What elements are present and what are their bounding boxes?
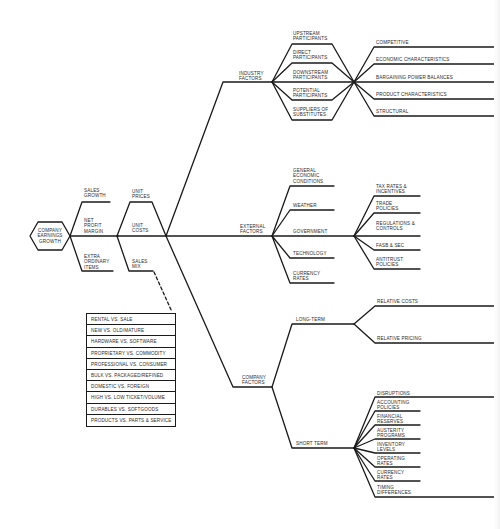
branch-short-term — [272, 387, 354, 448]
node-bargaining-power-balances: BARGAINING POWER BALANCES — [376, 75, 453, 80]
root-label-company-earnings-growth: COMPANY EARNINGS GROWTH — [33, 228, 67, 244]
node-company-factors: COMPANY FACTORS — [242, 375, 266, 386]
node-net-profit-margin: NET PROFIT MARGIN — [84, 218, 103, 234]
node-unit-costs: UNIT COSTS — [132, 223, 149, 234]
node-downstream-participants: DOWNSTREAM PARTICIPANTS — [293, 70, 328, 81]
sales-mix-item: RENTAL VS. SALE — [87, 314, 175, 325]
sales-mix-list: RENTAL VS. SALE NEW VS. OLD/MATURE HARDW… — [86, 313, 176, 427]
node-short-term: SHORT TERM — [296, 441, 328, 446]
sales-mix-item: BULK VS. PACKAGED/REFINED — [87, 370, 175, 381]
node-operating-rates: OPERATING RATES — [377, 456, 405, 467]
node-sales-mix: SALES MIX — [132, 259, 148, 270]
node-external-factors: EXTERNAL FACTORS — [240, 224, 265, 235]
sales-mix-item: HARDWARE VS. SOFTWARE — [87, 336, 175, 347]
node-suppliers-of-substitutes: SUPPLIERS OF SUBSTITUTES — [293, 107, 328, 118]
node-sales-growth: SALES GROWTH — [84, 188, 106, 199]
node-direct-participants: DIRECT PARTICIPANTS — [293, 50, 327, 61]
node-currency-rates-company: CURRENCY RATES — [377, 470, 404, 481]
node-antitrust-policies: ANTITRUST POLICIES — [376, 257, 403, 268]
sales-mix-item: PROFESSIONAL VS. CONSUMER — [87, 359, 175, 370]
node-economic-characteristics: ECONOMIC CHARACTERISTICS — [376, 57, 450, 62]
node-disruptions: DISRUPTIONS — [377, 391, 410, 396]
node-fasb-sec: FASB & SEC — [376, 243, 404, 248]
node-timing-differences: TIMING DIFFERENCES — [377, 485, 411, 496]
node-trade-policies: TRADE POLICIES — [376, 201, 398, 212]
sales-mix-dashed-link — [154, 272, 172, 312]
node-weather: WEATHER — [293, 203, 317, 208]
branch-company-factors — [166, 236, 272, 387]
sales-mix-item: HIGH VS. LOW TICKET/VOLUME — [87, 392, 175, 403]
node-long-term: LONG-TERM — [296, 317, 325, 322]
sales-mix-item: PROPRIETARY VS. COMMODITY — [87, 348, 175, 359]
node-inventory-levels: INVENTORY LEVELS — [377, 442, 405, 453]
node-unit-prices: UNIT PRICES — [132, 189, 150, 200]
node-currency-rates-external: CURRENCY RATES — [293, 271, 320, 282]
node-financial-reserves: FINANCIAL RESERVES — [377, 414, 403, 425]
page-edge-shadow — [494, 0, 500, 529]
node-tax-rates-incentives: TAX RATES & INCENTIVES — [376, 184, 407, 195]
node-austerity-programs: AUSTERITY PROGRAMS — [377, 428, 405, 439]
node-relative-pricing: RELATIVE PRICING — [377, 336, 422, 341]
node-relative-costs: RELATIVE COSTS — [377, 299, 418, 304]
node-technology: TECHNOLOGY — [293, 251, 327, 256]
node-government: GOVERNMENT — [293, 229, 327, 234]
node-accounting-policies: ACCOUNTING POLICIES — [377, 400, 409, 411]
sales-mix-item: NEW VS. OLD/MATURE — [87, 325, 175, 336]
node-potential-participants: POTENTIAL PARTICIPANTS — [293, 88, 327, 99]
node-regulations-controls: REGULATIONS & CONTROLS — [376, 221, 415, 232]
branch-industry-factors — [166, 82, 272, 236]
sales-mix-item: PRODUCTS VS. PARTS & SERVICE — [87, 415, 175, 426]
node-product-characteristics: PRODUCT CHARACTERISTICS — [376, 92, 447, 97]
node-extraordinary-items: EXTRA ORDINARY ITEMS — [84, 254, 109, 270]
sales-mix-item: DURABLES VS. SOFTGOODS — [87, 404, 175, 415]
sales-mix-item: DOMESTIC VS. FOREIGN — [87, 381, 175, 392]
node-industry-factors: INDUSTRY FACTORS — [239, 71, 264, 82]
node-competitive: COMPETITIVE — [376, 40, 409, 45]
node-structural: STRUCTURAL — [376, 109, 408, 114]
node-upstream-participants: UPSTREAM PARTICIPANTS — [293, 31, 327, 42]
branch-long-term — [272, 324, 354, 387]
node-general-economic-conditions: GENERAL ECONOMIC CONDITIONS — [293, 168, 323, 184]
